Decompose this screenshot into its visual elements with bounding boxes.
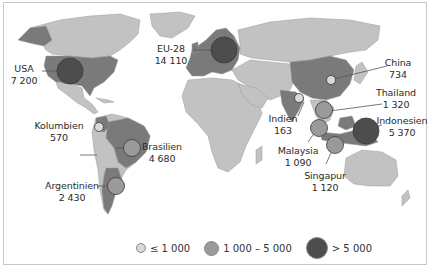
- label-colombia-name: Kolumbien: [34, 120, 83, 131]
- usa-circle[interactable]: [57, 58, 83, 84]
- colombia-circle[interactable]: [95, 123, 104, 132]
- label-argentina: Argentinien 2 430: [44, 180, 100, 204]
- label-thailand: Thailand 1 320: [372, 87, 420, 111]
- label-india-name: Indien: [269, 113, 298, 124]
- argentina-circle[interactable]: [108, 178, 125, 195]
- label-colombia-value: 570: [34, 132, 84, 144]
- label-eu-value: 14 110: [150, 55, 192, 67]
- label-singapore: Singapur 1 120: [303, 170, 347, 194]
- new-zealand-shape: [402, 190, 410, 206]
- label-malaysia: Malaysia 1 090: [276, 145, 320, 169]
- label-colombia: Kolumbien 570: [34, 120, 84, 144]
- caribbean-shape: [96, 98, 114, 103]
- label-usa-name: USA: [14, 63, 33, 74]
- label-brazil-value: 4 680: [140, 153, 184, 165]
- label-indonesia-name: Indonesien: [377, 115, 428, 126]
- uk-shape: [192, 42, 198, 54]
- label-brazil: Brasilien 4 680: [140, 141, 184, 165]
- label-argentina-value: 2 430: [44, 192, 100, 204]
- label-eu-name: EU-28: [157, 43, 185, 54]
- map-legend: ≤ 1 000 1 000 – 5 000 > 5 000: [136, 237, 386, 259]
- label-eu: EU-28 14 110: [150, 43, 192, 67]
- label-singapore-value: 1 120: [303, 182, 347, 194]
- label-india-value: 163: [266, 125, 300, 137]
- legend-medium-label: 1 000 – 5 000: [223, 243, 292, 254]
- legend-small-circle-icon: [136, 243, 146, 253]
- label-thailand-value: 1 320: [372, 99, 420, 111]
- label-china-name: China: [385, 57, 412, 68]
- label-indonesia: Indonesien 5 370: [375, 115, 429, 139]
- japan-shape: [354, 62, 368, 84]
- russia-shape: [238, 18, 380, 62]
- china-circle[interactable]: [327, 76, 336, 85]
- malaysia-circle[interactable]: [311, 120, 328, 137]
- brazil-circle[interactable]: [124, 140, 141, 157]
- madagascar-shape: [256, 146, 262, 164]
- label-argentina-name: Argentinien: [45, 180, 99, 191]
- label-brazil-name: Brasilien: [142, 141, 182, 152]
- label-china: China 734: [380, 57, 416, 81]
- label-malaysia-value: 1 090: [276, 157, 320, 169]
- label-indonesia-value: 5 370: [375, 127, 429, 139]
- india-circle[interactable]: [295, 94, 304, 103]
- label-usa: USA 7 200: [6, 63, 42, 87]
- legend-small-label: ≤ 1 000: [150, 243, 190, 254]
- thailand-circle[interactable]: [316, 102, 333, 119]
- legend-item-large: > 5 000: [306, 237, 372, 259]
- greenland-shape: [150, 12, 195, 38]
- legend-large-label: > 5 000: [332, 243, 372, 254]
- label-china-value: 734: [380, 69, 416, 81]
- legend-item-medium: 1 000 – 5 000: [204, 241, 292, 256]
- label-singapore-name: Singapur: [304, 170, 346, 181]
- label-india: Indien 163: [266, 113, 300, 137]
- eu-circle[interactable]: [211, 37, 237, 63]
- alaska-shape: [18, 26, 52, 46]
- legend-item-small: ≤ 1 000: [136, 243, 190, 254]
- label-malaysia-name: Malaysia: [278, 145, 319, 156]
- australia-shape: [344, 150, 398, 186]
- label-usa-value: 7 200: [6, 75, 42, 87]
- singapore-circle[interactable]: [327, 137, 344, 154]
- label-thailand-name: Thailand: [376, 87, 416, 98]
- legend-large-circle-icon: [306, 237, 328, 259]
- legend-medium-circle-icon: [204, 241, 219, 256]
